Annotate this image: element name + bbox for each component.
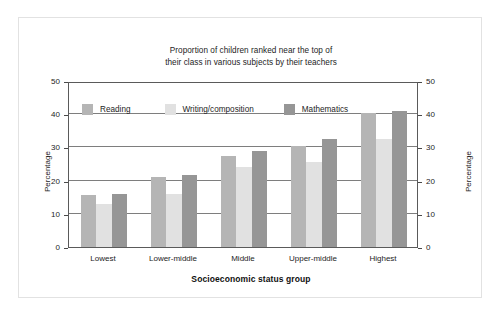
y-tick-label-right-40: 40 <box>426 111 435 119</box>
legend-label-reading: Reading <box>100 105 131 114</box>
y-tick-mark-right-10 <box>418 215 422 216</box>
x-category-label-middle: Middle <box>208 254 278 263</box>
bar-lower-middle-mathematics <box>182 175 198 247</box>
legend-label-writing-composition: Writing/composition <box>183 105 254 114</box>
y-tick-mark-right-40 <box>418 115 422 116</box>
y-tick-label-left-50: 50 <box>19 78 60 86</box>
chart-figure-frame: Proportion of children ranked near the t… <box>18 17 482 298</box>
legend-item-writing-composition: Writing/composition <box>165 104 254 115</box>
chart-title: Proportion of children ranked near the t… <box>19 45 483 68</box>
chart-title-line-2: their class in various subjects by their… <box>19 57 483 69</box>
bar-lowest-writing-composition <box>96 204 112 247</box>
y-tick-label-right-0: 0 <box>426 244 430 252</box>
x-category-label-lowest: Lowest <box>68 254 138 263</box>
legend-swatch-icon-reading <box>82 104 93 115</box>
bar-highest-mathematics <box>392 111 408 247</box>
y-tick-label-left-30: 30 <box>19 144 60 152</box>
chart-title-line-1: Proportion of children ranked near the t… <box>19 45 483 57</box>
y-tick-label-right-10: 10 <box>426 211 435 219</box>
y-tick-label-left-20: 20 <box>19 178 60 186</box>
bar-highest-writing-composition <box>376 139 392 247</box>
y-axis-title-left: Percentage <box>43 151 52 192</box>
bar-lower-middle-reading <box>151 177 167 247</box>
x-axis-title: Socioeconomic status group <box>19 274 483 284</box>
legend-swatch-icon-mathematics <box>284 104 295 115</box>
chart-legend: ReadingWriting/compositionMathematics <box>82 102 348 116</box>
bar-upper-middle-mathematics <box>322 139 338 247</box>
bar-middle-reading <box>221 156 237 247</box>
legend-swatch-icon-writing-composition <box>165 104 176 115</box>
x-axis-category-labels: LowestLower-middleMiddleUpper-middleHigh… <box>68 254 418 268</box>
legend-label-mathematics: Mathematics <box>302 105 348 114</box>
x-category-label-lower-middle: Lower-middle <box>138 254 208 263</box>
bar-upper-middle-writing-composition <box>306 162 322 247</box>
y-tick-label-right-20: 20 <box>426 178 435 186</box>
y-tick-label-right-30: 30 <box>426 144 435 152</box>
y-axis-title-right: Percentage <box>464 151 473 192</box>
x-category-label-upper-middle: Upper-middle <box>278 254 348 263</box>
legend-item-reading: Reading <box>82 104 131 115</box>
bar-highest-reading <box>361 113 377 247</box>
bar-upper-middle-reading <box>291 146 307 247</box>
y-tick-label-left-40: 40 <box>19 111 60 119</box>
bar-middle-mathematics <box>252 151 268 247</box>
bar-lower-middle-writing-composition <box>166 194 182 247</box>
y-tick-label-left-0: 0 <box>19 244 60 252</box>
y-tick-label-left-10: 10 <box>19 211 60 219</box>
y-tick-mark-right-50 <box>418 82 422 83</box>
y-tick-mark-right-20 <box>418 182 422 183</box>
bar-lowest-reading <box>81 195 97 247</box>
y-tick-mark-right-0 <box>418 248 422 249</box>
x-category-label-highest: Highest <box>348 254 418 263</box>
y-tick-label-right-50: 50 <box>426 78 435 86</box>
bar-lowest-mathematics <box>112 194 128 247</box>
y-tick-mark-left-0 <box>64 248 68 249</box>
bar-middle-writing-composition <box>236 167 252 247</box>
legend-item-mathematics: Mathematics <box>284 104 348 115</box>
y-tick-mark-right-30 <box>418 148 422 149</box>
